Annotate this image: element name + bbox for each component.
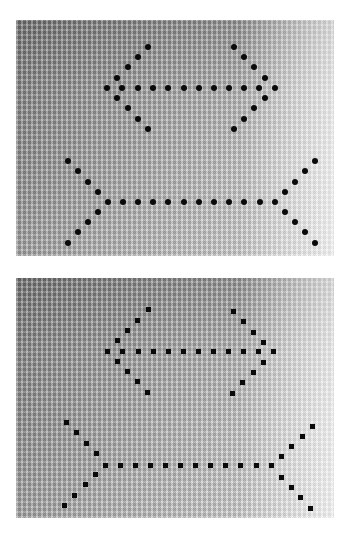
shaft-dot	[105, 349, 110, 354]
right-head-dot	[292, 179, 298, 185]
left-head-dot	[72, 493, 77, 498]
right-head-dot	[251, 105, 257, 111]
left-head-dot	[135, 379, 140, 384]
left-head-dot	[135, 116, 141, 122]
shaft-dot	[166, 349, 171, 354]
left-head-dot	[125, 369, 130, 374]
shaft-dot	[211, 85, 217, 91]
shaft-dot	[241, 85, 247, 91]
shaft-dot	[223, 463, 228, 468]
left-head-dot	[115, 338, 120, 343]
left-head-dot	[115, 359, 120, 364]
shaft-dot	[211, 199, 217, 205]
shaft-dot	[196, 199, 202, 205]
right-head-dot	[279, 475, 284, 480]
shaft-dot	[104, 85, 110, 91]
right-head-dot	[240, 380, 245, 385]
right-head-dot	[262, 95, 268, 101]
left-head-dot	[65, 158, 71, 164]
right-head-dot	[230, 391, 235, 396]
left-head-dot	[145, 126, 151, 132]
left-head-dot	[135, 318, 140, 323]
left-head-dot	[64, 420, 69, 425]
right-head-dot	[292, 219, 298, 225]
shaft-dot	[150, 85, 156, 91]
left-head-dot	[75, 168, 81, 174]
left-head-dot	[145, 390, 150, 395]
left-head-dot	[125, 328, 130, 333]
shaft-dot	[119, 85, 125, 91]
left-head-dot	[74, 430, 79, 435]
shaft-dot	[256, 349, 261, 354]
shaft-dot	[272, 199, 278, 205]
right-head-dot	[261, 340, 266, 345]
left-head-dot	[114, 95, 120, 101]
shaft-dot	[238, 463, 243, 468]
left-head-dot	[146, 307, 151, 312]
shaft-dot	[196, 85, 202, 91]
left-head-dot	[83, 482, 88, 487]
shaft-dot	[211, 349, 216, 354]
shaft-dot	[208, 463, 213, 468]
shaft-dot	[181, 85, 187, 91]
shaft-dot	[165, 85, 171, 91]
shaft-dot	[118, 463, 123, 468]
shaft-dot	[181, 349, 186, 354]
shaft-dot	[133, 463, 138, 468]
right-head-dot	[282, 209, 288, 215]
shaft-dot	[178, 463, 183, 468]
shaft-dot	[120, 349, 125, 354]
left-head-dot	[145, 44, 151, 50]
shaft-dot	[148, 463, 153, 468]
right-head-dot	[298, 495, 303, 500]
shaft-dot	[103, 463, 108, 468]
shaft-dot	[120, 199, 126, 205]
shaft-dot	[269, 463, 274, 468]
right-head-dot	[231, 309, 236, 314]
shaft-dot	[257, 199, 263, 205]
shaft-dot	[254, 463, 259, 468]
left-head-dot	[85, 179, 91, 185]
right-head-dot	[251, 370, 256, 375]
right-head-dot	[241, 116, 247, 122]
shaft-dot	[271, 349, 276, 354]
shaft-dot	[135, 85, 141, 91]
right-head-dot	[308, 506, 313, 511]
shaft-dot	[256, 85, 262, 91]
left-head-dot	[95, 189, 101, 195]
left-head-dot	[75, 229, 81, 235]
shaft-dot	[196, 349, 201, 354]
left-head-dot	[114, 75, 120, 81]
left-head-dot	[93, 472, 98, 477]
right-head-dot	[251, 64, 257, 70]
shaft-dot	[193, 463, 198, 468]
right-head-dot	[231, 44, 237, 50]
left-head-dot	[125, 64, 131, 70]
left-head-dot	[125, 105, 131, 111]
shaft-dot	[226, 349, 231, 354]
left-head-dot	[62, 503, 67, 508]
left-head-dot	[95, 209, 101, 215]
left-head-dot	[65, 240, 71, 246]
right-head-dot	[231, 126, 237, 132]
shaft-dot	[272, 85, 278, 91]
right-head-dot	[302, 168, 308, 174]
shaft-dot	[165, 199, 171, 205]
shaft-dot	[226, 199, 232, 205]
shaft-dot	[241, 349, 246, 354]
left-head-dot	[135, 54, 141, 60]
right-head-dot	[300, 434, 305, 439]
right-head-dot	[261, 360, 266, 365]
shaft-dot	[226, 85, 232, 91]
right-head-dot	[312, 240, 318, 246]
dot-figures-layer	[0, 0, 348, 534]
right-head-dot	[279, 454, 284, 459]
right-head-dot	[289, 485, 294, 490]
right-head-dot	[302, 229, 308, 235]
shaft-dot	[241, 199, 247, 205]
right-head-dot	[251, 330, 256, 335]
shaft-dot	[150, 199, 156, 205]
shaft-dot	[163, 463, 168, 468]
left-head-dot	[85, 219, 91, 225]
right-head-dot	[241, 54, 247, 60]
